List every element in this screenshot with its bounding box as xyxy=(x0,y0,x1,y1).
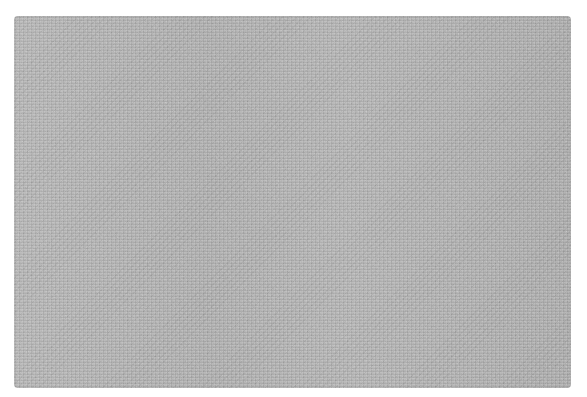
gray-textured-rug xyxy=(14,16,571,388)
fabric-texture xyxy=(14,16,571,388)
